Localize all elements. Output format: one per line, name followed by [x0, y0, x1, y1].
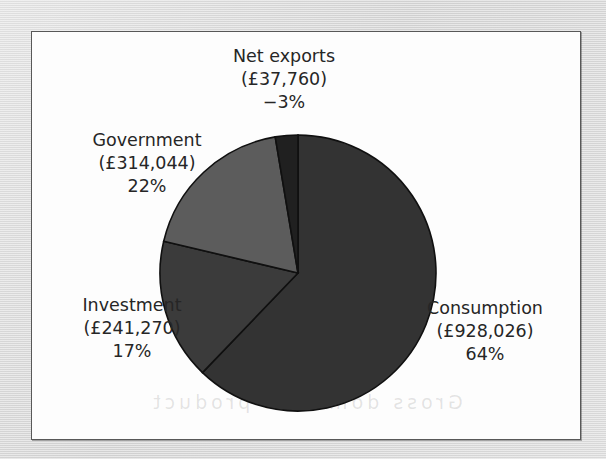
pie-label-net-exports-value: (£37,760)	[184, 68, 384, 91]
pie-label-net-exports-percent: −3%	[184, 91, 384, 114]
pie-label-investment: Investment (£241,270) 17%	[37, 294, 227, 362]
pie-label-investment-value: (£241,270)	[37, 317, 227, 340]
pie-label-consumption-name: Consumption	[390, 297, 580, 320]
pie-label-net-exports-name: Net exports	[184, 45, 384, 68]
pie-label-consumption: Consumption (£928,026) 64%	[390, 297, 580, 365]
pie-label-government: Government (£314,044) 22%	[52, 129, 242, 197]
pie-label-consumption-value: (£928,026)	[390, 320, 580, 343]
pie-label-government-percent: 22%	[52, 175, 242, 198]
pie-label-net-exports: Net exports (£37,760) −3%	[184, 45, 384, 113]
pie-label-consumption-percent: 64%	[390, 343, 580, 366]
pie-chart-plot-area: Net exports (£37,760) −3% Government (£3…	[32, 32, 580, 439]
pie-label-investment-name: Investment	[37, 294, 227, 317]
figure-frame: Gross domestic product Net exports (£37,…	[31, 31, 581, 440]
pie-label-government-value: (£314,044)	[52, 152, 242, 175]
pie-label-investment-percent: 17%	[37, 340, 227, 363]
pie-label-government-name: Government	[52, 129, 242, 152]
